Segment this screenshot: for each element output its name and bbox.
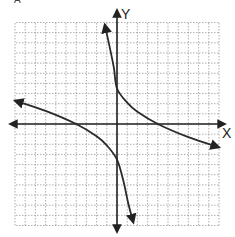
coordinate-graph: X Y <box>0 0 235 237</box>
y-axis-label: Y <box>121 6 131 22</box>
x-axis-label: X <box>222 125 232 141</box>
curve-left-branch <box>15 101 133 223</box>
